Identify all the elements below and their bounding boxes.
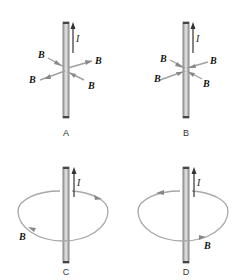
panel-caption: C [56,267,76,277]
current-arrow-icon [191,22,196,53]
current-arrow-icon [72,167,77,197]
field-label: B [38,49,45,60]
current-arrow-icon [71,22,76,53]
current-label: I [76,33,79,44]
panel-d: I B D [120,140,240,280]
field-label: B [160,53,167,64]
field-label: B [204,240,211,251]
panel-a-graphic [0,0,120,140]
current-label: I [197,177,200,188]
field-label: B [29,74,36,85]
panel-caption: A [56,128,76,138]
panel-caption: B [176,128,196,138]
panel-c: I B C [0,140,120,280]
field-label: B [210,55,217,66]
field-label: B [154,73,161,84]
current-label: I [77,177,80,188]
panel-c-graphic [0,140,120,280]
field-label: B [95,55,102,66]
field-label: B [203,78,210,89]
field-label: B [19,231,26,242]
current-label: I [196,33,199,44]
panel-b-graphic [120,0,240,140]
field-label: B [88,80,95,91]
panel-b: I B B B B B [120,0,240,140]
panel-caption: D [176,267,196,277]
panel-d-graphic [120,140,240,280]
panel-a: I B B B B A [0,0,120,140]
current-arrow-icon [192,167,197,197]
